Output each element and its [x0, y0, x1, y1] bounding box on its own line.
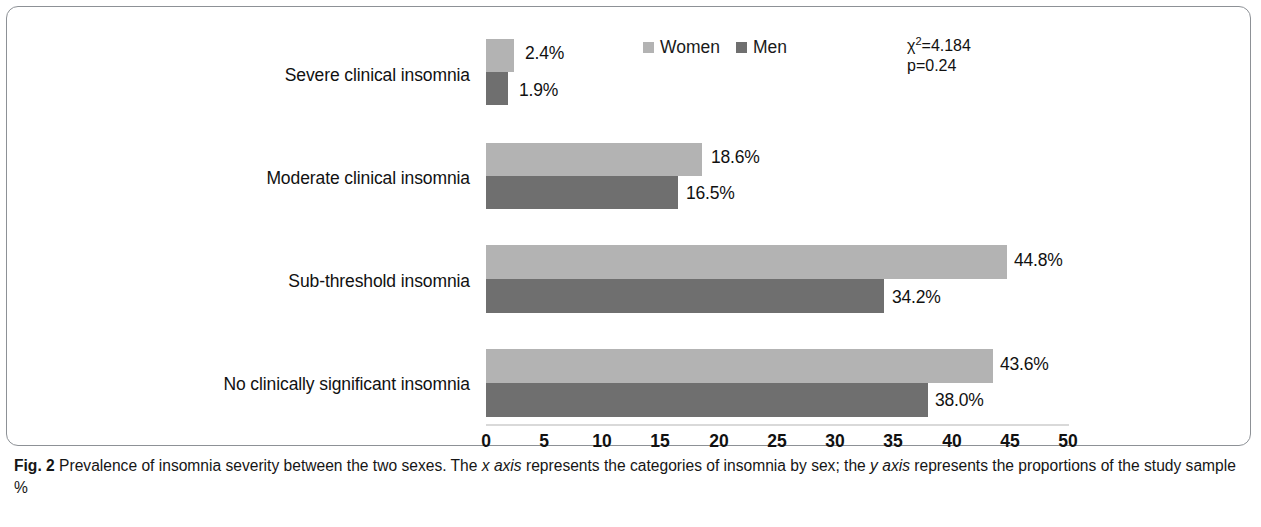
figure-number: Fig. 2 — [14, 457, 55, 474]
caption-italic-x-axis: x axis — [482, 457, 522, 474]
chart-plot-area: Women Men χ2=4.184 p=0.24 Severe clinica… — [7, 7, 1250, 445]
chi-square-value: χ2=4.184 — [907, 35, 971, 56]
category-label-none: No clinically significant insomnia — [223, 374, 470, 395]
figure-panel: Women Men χ2=4.184 p=0.24 Severe clinica… — [6, 6, 1251, 446]
legend-swatch-women-icon — [643, 42, 654, 53]
x-tick-35: 35 — [883, 431, 902, 452]
statistics-annotation: χ2=4.184 p=0.24 — [907, 35, 971, 76]
legend-item-women: Women — [643, 37, 720, 58]
x-tick-0: 0 — [481, 431, 491, 452]
value-label-none-men: 38.0% — [935, 390, 984, 411]
value-label-moderate-men: 16.5% — [686, 183, 735, 204]
bar-sub-women — [486, 245, 1007, 279]
caption-text-1: Prevalence of insomnia severity between … — [55, 457, 482, 474]
x-axis-tick-labels: 0 5 10 15 20 25 30 35 40 45 50 — [7, 431, 1250, 455]
x-tick-30: 30 — [825, 431, 844, 452]
legend-label-men: Men — [753, 37, 787, 58]
chart-legend: Women Men — [643, 37, 787, 58]
legend-swatch-men-icon — [736, 42, 747, 53]
bar-sub-men — [486, 279, 884, 313]
category-label-moderate: Moderate clinical insomnia — [266, 168, 470, 189]
x-tick-45: 45 — [1000, 431, 1019, 452]
bar-none-men — [486, 383, 928, 417]
value-label-sub-women: 44.8% — [1014, 250, 1063, 271]
x-tick-10: 10 — [592, 431, 611, 452]
value-label-severe-men: 1.9% — [519, 80, 558, 101]
caption-text-2: represents the categories of insomnia by… — [522, 457, 870, 474]
x-tick-25: 25 — [767, 431, 786, 452]
x-tick-20: 20 — [709, 431, 728, 452]
x-tick-5: 5 — [539, 431, 549, 452]
value-label-none-women: 43.6% — [1000, 354, 1049, 375]
value-label-sub-men: 34.2% — [892, 287, 941, 308]
legend-label-women: Women — [660, 37, 720, 58]
caption-italic-y-axis: y axis — [870, 457, 910, 474]
x-tick-15: 15 — [650, 431, 669, 452]
value-label-severe-women: 2.4% — [525, 43, 564, 64]
category-label-severe: Severe clinical insomnia — [285, 65, 470, 86]
p-value: p=0.24 — [907, 56, 971, 76]
legend-item-men: Men — [736, 37, 787, 58]
bar-severe-men — [486, 72, 508, 105]
x-tick-50: 50 — [1058, 431, 1077, 452]
figure-caption: Fig. 2 Prevalence of insomnia severity b… — [14, 455, 1249, 499]
bar-none-women — [486, 349, 993, 383]
chi-number: =4.184 — [922, 37, 971, 54]
x-tick-40: 40 — [942, 431, 961, 452]
category-label-sub: Sub-threshold insomnia — [288, 271, 470, 292]
bar-severe-women — [486, 39, 514, 72]
value-label-moderate-women: 18.6% — [711, 147, 760, 168]
bar-moderate-men — [486, 176, 678, 209]
x-axis-line — [486, 424, 1069, 426]
bar-moderate-women — [486, 143, 702, 176]
